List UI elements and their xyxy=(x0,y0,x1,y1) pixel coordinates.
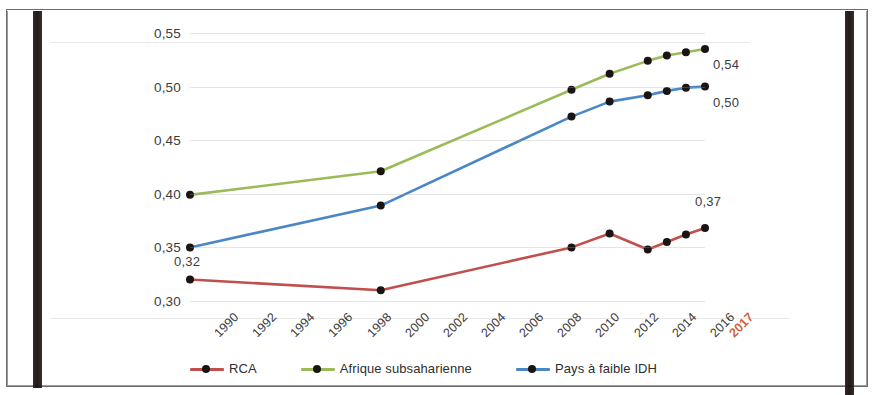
x-axis-tick-label: 1992 xyxy=(250,310,280,340)
x-axis-tick-label: 2014 xyxy=(669,310,699,340)
x-axis-tick-label: 1994 xyxy=(288,310,318,340)
data-point-marker xyxy=(644,91,652,99)
gridline xyxy=(190,247,705,248)
gridline xyxy=(190,33,705,34)
x-axis-tick-label: 2006 xyxy=(517,310,547,340)
data-point-marker xyxy=(377,167,385,175)
x-axis-tick-label: 2008 xyxy=(555,310,585,340)
x-axis-tick-label: 1990 xyxy=(211,310,241,340)
y-axis-tick-label: 0,55 xyxy=(154,26,181,41)
x-axis-tick-label: 2012 xyxy=(631,310,661,340)
plot-area: 0,550,500,450,400,350,301990199219941996… xyxy=(190,33,705,301)
line-chart: 0,550,500,450,400,350,301990199219941996… xyxy=(0,0,879,395)
legend-item[interactable]: RCA xyxy=(190,361,257,376)
data-point-marker xyxy=(377,286,385,294)
y-axis-tick-label: 0,30 xyxy=(154,294,181,309)
legend-label: RCA xyxy=(229,361,257,376)
series-line xyxy=(190,228,705,290)
legend-swatch-icon xyxy=(301,364,335,373)
x-axis-tick-label: 2010 xyxy=(593,310,623,340)
data-point-marker xyxy=(606,98,614,106)
data-value-label: 0,32 xyxy=(174,254,200,269)
data-point-marker xyxy=(606,70,614,78)
data-point-marker xyxy=(644,57,652,65)
screenshot-root: 0,550,500,450,400,350,301990199219941996… xyxy=(0,0,879,395)
gridline xyxy=(190,140,705,141)
data-value-label: 0,54 xyxy=(713,57,739,72)
gridline xyxy=(190,87,705,88)
series-line xyxy=(190,49,705,195)
data-point-marker xyxy=(186,191,194,199)
data-point-marker xyxy=(701,224,709,232)
data-point-marker xyxy=(682,231,690,239)
data-value-label: 0,50 xyxy=(713,95,739,110)
data-point-marker xyxy=(186,276,194,284)
data-point-marker xyxy=(567,113,575,121)
x-axis-tick-label: 2002 xyxy=(440,310,470,340)
gridline xyxy=(190,194,705,195)
legend-label: Afrique subsaharienne xyxy=(340,361,472,376)
data-point-marker xyxy=(377,202,385,210)
legend-item[interactable]: Pays à faible IDH xyxy=(516,361,657,376)
legend-label: Pays à faible IDH xyxy=(555,361,657,376)
legend-swatch-icon xyxy=(516,364,550,373)
x-axis-tick-label: 1996 xyxy=(326,310,356,340)
x-axis-tick-label: 1998 xyxy=(364,310,394,340)
x-axis-tick-label: 2000 xyxy=(402,310,432,340)
data-point-marker xyxy=(663,52,671,60)
y-axis-tick-label: 0,45 xyxy=(154,133,181,148)
chart-legend: RCAAfrique subsahariennePays à faible ID… xyxy=(190,361,750,376)
legend-item[interactable]: Afrique subsaharienne xyxy=(301,361,472,376)
data-point-marker xyxy=(701,45,709,53)
data-point-marker xyxy=(663,238,671,246)
series-line xyxy=(190,87,705,248)
data-value-label: 0,37 xyxy=(695,194,721,209)
gridline xyxy=(190,301,705,302)
data-point-marker xyxy=(682,48,690,56)
data-point-marker xyxy=(682,84,690,92)
data-point-marker xyxy=(606,229,614,237)
data-point-marker xyxy=(663,87,671,95)
legend-swatch-icon xyxy=(190,364,224,373)
x-axis-tick-label: 2004 xyxy=(478,310,508,340)
y-axis-tick-label: 0,40 xyxy=(154,186,181,201)
series-layer xyxy=(190,33,705,301)
y-axis-tick-label: 0,50 xyxy=(154,79,181,94)
